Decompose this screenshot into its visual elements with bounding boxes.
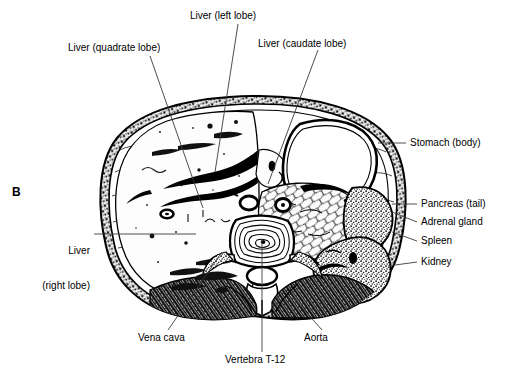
label-liver-quadrate-lobe: Liver (quadrate lobe) — [68, 42, 160, 54]
label-liver-right-lobe: Liver (right lobe) — [0, 222, 90, 303]
label-spleen: Spleen — [421, 235, 452, 247]
label-adrenal-gland: Adrenal gland — [421, 216, 483, 228]
abdominal-cross-section-figure — [0, 0, 506, 381]
vena-cava-lumen — [240, 196, 258, 210]
label-kidney: Kidney — [421, 256, 452, 268]
label-liver-left-lobe: Liver (left lobe) — [190, 10, 256, 22]
label-aorta: Aorta — [304, 332, 328, 344]
label-liver-caudate-lobe: Liver (caudate lobe) — [258, 38, 346, 50]
label-vena-cava: Vena cava — [138, 332, 185, 344]
label-liver-right-lobe-line2: (right lobe) — [0, 280, 90, 292]
label-pancreas-tail: Pancreas (tail) — [421, 198, 485, 210]
label-stomach-body: Stomach (body) — [410, 137, 481, 149]
panel-letter-b: B — [12, 185, 21, 199]
label-liver-right-lobe-line1: Liver — [0, 245, 90, 257]
label-vertebra-t12: Vertebra T-12 — [225, 354, 285, 366]
